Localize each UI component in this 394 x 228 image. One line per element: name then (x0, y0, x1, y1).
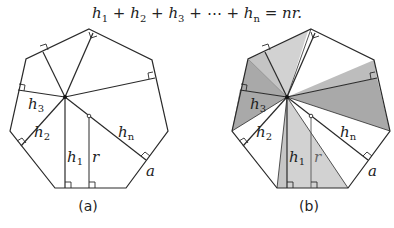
heptagon-diagrams: h1 r h2 h3 hn a (0, 0, 394, 228)
figure-b: h1 r h2 h3 hn a (232, 29, 390, 188)
label-r-b: r (314, 148, 322, 166)
interior-point (63, 95, 67, 99)
label-a-b: a (368, 162, 377, 180)
interior-point-b (285, 95, 289, 99)
caption-b: (b) (289, 198, 329, 214)
incenter-point (87, 114, 91, 118)
label-a-a: a (146, 162, 155, 180)
label-r-a: r (92, 148, 100, 166)
caption-a: (a) (68, 198, 108, 214)
